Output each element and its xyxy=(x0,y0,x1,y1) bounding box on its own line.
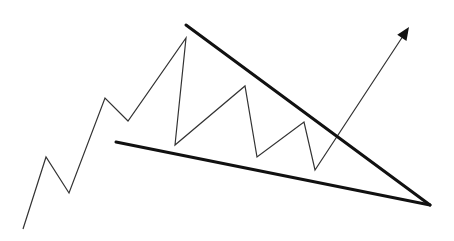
lower-trendline xyxy=(116,142,430,205)
falling-wedge-diagram xyxy=(0,0,454,241)
price-zigzag-line xyxy=(23,33,405,229)
upper-trendline xyxy=(186,25,430,205)
breakout-arrowhead-icon xyxy=(397,27,409,41)
